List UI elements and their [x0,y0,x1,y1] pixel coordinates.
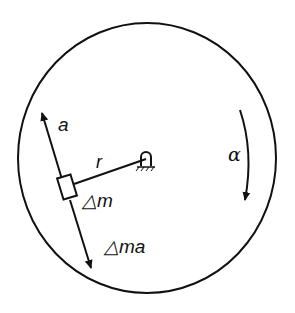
radius-line [74,159,146,184]
label-mass-element: △m [81,190,113,211]
label-inertia-force: △ma [103,236,145,257]
mass-element [57,174,77,199]
disk-diagram: a r △m △ma α [0,0,295,313]
label-radius: r [96,152,103,172]
label-acceleration: a [58,114,69,135]
angular-acceleration-arrow [240,110,249,200]
label-angular-acceleration: α [228,143,241,165]
